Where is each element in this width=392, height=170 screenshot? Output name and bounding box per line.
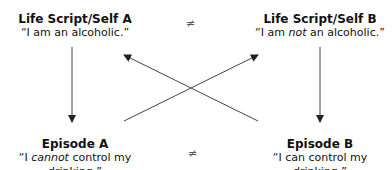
node-title: Life Script/Self B [250,12,390,26]
node-episode-a: Episode A “I cannot control my drinking.… [0,137,150,170]
node-title: Episode A [0,137,150,151]
node-title: Episode B [245,137,392,151]
node-quote: “I am an alcoholic.” [10,26,140,40]
not-equal-symbol-top: ≠ [186,17,195,30]
node-episode-b: Episode B “I can control my drinking.” [245,137,392,170]
node-self-a: Life Script/Self A “I am an alcoholic.” [10,12,140,40]
not-equal-symbol-bottom: ≠ [188,147,197,160]
node-self-b: Life Script/Self B “I am not an alcoholi… [250,12,390,40]
node-quote: “I can control my drinking.” [245,151,392,170]
node-title: Life Script/Self A [10,12,140,26]
node-quote: “I am not an alcoholic.” [250,26,390,40]
node-quote: “I cannot control my drinking.” [0,151,150,170]
